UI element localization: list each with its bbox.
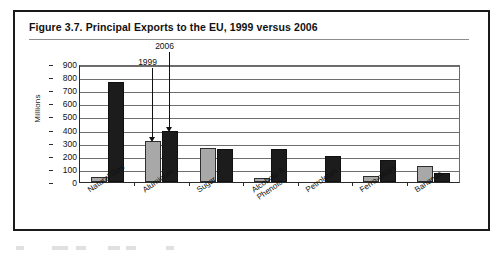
plot-area <box>79 65 460 183</box>
annotation-arrow-head-2006 <box>166 127 172 132</box>
y-tick-mark <box>49 65 53 66</box>
gridline <box>80 132 459 133</box>
bar-2006-sugar <box>217 149 233 182</box>
x-tick-mark <box>352 182 353 186</box>
y-axis-title: Millions <box>33 79 42 139</box>
gridline <box>80 145 459 146</box>
annotation-arrow-line-2006 <box>169 52 170 128</box>
x-tick-mark <box>189 182 190 186</box>
y-tick-mark <box>49 170 53 171</box>
x-tick-mark <box>298 182 299 186</box>
gridline <box>80 118 459 119</box>
gridline <box>80 92 459 93</box>
x-tick-mark <box>243 182 244 186</box>
source-caption-fragment <box>16 246 216 250</box>
gridline <box>80 158 459 159</box>
y-axis-tick-labels: 0100200300400500600700800900 <box>45 65 77 183</box>
y-tick-mark <box>49 183 53 184</box>
x-tick-mark <box>134 182 135 186</box>
y-tick-mark <box>49 117 53 118</box>
annotation-arrow-head-1999 <box>149 137 155 142</box>
figure-frame: Figure 3.7. Principal Exports to the EU,… <box>13 10 490 231</box>
y-tick-mark <box>49 131 53 132</box>
y-tick-mark <box>49 157 53 158</box>
gridline <box>80 105 459 106</box>
gridline <box>80 66 459 67</box>
annotation-label-2006: 2006 <box>155 41 174 51</box>
x-tick-mark <box>407 182 408 186</box>
gridline <box>80 79 459 80</box>
annotation-arrow-line-1999 <box>152 68 153 138</box>
y-tick-mark <box>49 78 53 79</box>
y-tick-mark <box>49 104 53 105</box>
bar-chart: Millions 0100200300400500600700800900 Na… <box>15 12 492 233</box>
annotation-label-1999: 1999 <box>138 57 157 67</box>
y-tick-mark <box>49 144 53 145</box>
x-axis-category-labels: Natural GasAluminumSugarAlcohols & Pheno… <box>79 187 460 233</box>
y-tick-mark <box>49 91 53 92</box>
